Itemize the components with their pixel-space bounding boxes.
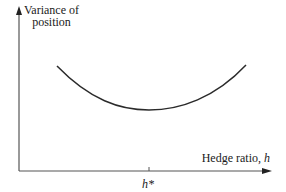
x-axis-arrow-icon <box>262 168 272 174</box>
y-axis-arrow-icon <box>16 6 22 15</box>
variance-curve <box>57 65 246 110</box>
x-axis-label-var: h <box>264 151 270 165</box>
x-axis-label: Hedge ratio, h <box>202 152 270 164</box>
y-axis-label: Variance of position <box>24 4 79 28</box>
h-star-label: h* <box>142 178 154 190</box>
y-axis-label-line2: position <box>24 16 79 28</box>
x-axis-label-text: Hedge ratio, <box>202 151 264 165</box>
